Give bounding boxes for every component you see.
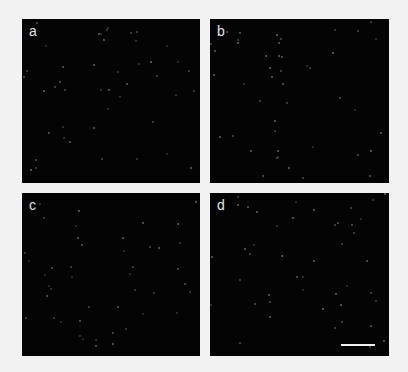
speck	[210, 304, 212, 306]
speck	[239, 32, 241, 34]
speck	[28, 260, 30, 262]
speck	[23, 76, 25, 78]
speck	[36, 22, 38, 24]
speck	[360, 218, 362, 220]
panel-label-d: d	[217, 198, 225, 212]
speck	[210, 43, 212, 45]
speck	[271, 76, 273, 78]
speck	[60, 321, 62, 323]
speck	[136, 158, 138, 160]
speck	[302, 276, 304, 278]
speck	[226, 31, 228, 33]
speck	[112, 343, 114, 345]
speck	[103, 39, 105, 41]
speck	[322, 308, 324, 310]
speck	[106, 29, 108, 31]
speck	[237, 39, 239, 41]
panel-a: a	[22, 19, 200, 183]
speck	[274, 130, 276, 132]
speck	[369, 175, 371, 177]
speck	[269, 316, 271, 318]
speck	[244, 248, 246, 250]
speck	[313, 209, 315, 211]
speck	[256, 211, 258, 213]
speck	[179, 242, 181, 244]
speck	[286, 102, 288, 104]
speck	[175, 94, 177, 96]
speck	[136, 31, 138, 33]
speck	[75, 225, 77, 227]
speck	[346, 285, 348, 287]
speck	[366, 260, 368, 262]
speck	[39, 203, 41, 205]
speck	[26, 70, 28, 72]
speck	[269, 301, 271, 303]
speck	[79, 335, 81, 337]
speck	[125, 328, 127, 330]
speck	[341, 243, 343, 245]
speck	[334, 327, 336, 329]
speck	[313, 260, 315, 262]
speck	[153, 292, 155, 294]
speck	[142, 222, 144, 224]
speck	[334, 224, 336, 226]
speck	[332, 52, 334, 54]
speck	[334, 29, 336, 31]
speck	[295, 201, 297, 203]
speck	[43, 217, 45, 219]
speck	[122, 237, 124, 239]
speck	[150, 61, 152, 63]
speck	[302, 177, 304, 179]
speck	[190, 167, 192, 169]
speck	[126, 83, 128, 85]
speck	[306, 65, 308, 67]
speck	[357, 154, 359, 156]
speck	[24, 252, 26, 254]
speck	[135, 40, 137, 42]
speck	[195, 201, 197, 203]
speck	[107, 108, 109, 110]
speck	[53, 317, 55, 319]
speck	[43, 90, 45, 92]
speck	[98, 33, 100, 35]
speck	[108, 89, 110, 91]
speck	[64, 89, 66, 91]
speck	[211, 256, 213, 258]
speck	[46, 295, 48, 297]
speck	[30, 169, 32, 171]
panel-label-c: c	[29, 198, 36, 212]
speck	[253, 244, 255, 246]
speck	[193, 90, 195, 92]
panel-d: d	[210, 193, 389, 356]
speck	[237, 42, 239, 44]
speck	[100, 89, 102, 91]
speck	[132, 266, 134, 268]
speck	[62, 126, 64, 128]
speck	[100, 33, 102, 35]
speck	[277, 150, 279, 152]
speck	[369, 346, 371, 348]
speck	[351, 224, 353, 226]
speck	[282, 83, 284, 85]
speck	[88, 306, 90, 308]
speck	[237, 204, 239, 206]
speck	[214, 50, 216, 52]
speck	[268, 294, 270, 296]
speck	[239, 279, 241, 281]
speck	[353, 232, 355, 234]
speck	[276, 225, 278, 227]
speck	[142, 313, 144, 315]
speck	[354, 109, 356, 111]
speck	[262, 175, 264, 177]
speck	[380, 132, 382, 134]
speck	[375, 300, 377, 302]
speck	[45, 45, 47, 47]
speck	[232, 135, 234, 137]
speck	[82, 338, 84, 340]
speck	[254, 303, 256, 305]
speck	[25, 317, 27, 319]
speck	[176, 312, 178, 314]
speck	[243, 83, 245, 85]
speck	[152, 121, 154, 123]
speck	[134, 289, 136, 291]
